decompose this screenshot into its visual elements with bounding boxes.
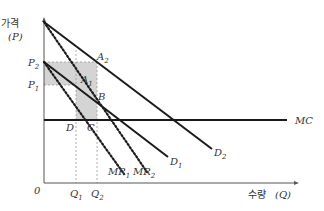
x-axis-symbol: (Q) [275, 189, 291, 200]
q1-label: Q1 [70, 188, 83, 202]
monopoly-diagram: 가격 (P) 수량 (Q) 0 P2 P1 Q1 Q2 A2 A1 B C D … [0, 0, 324, 211]
p1-label: P1 [27, 79, 39, 93]
x-axis-label: 수량 [248, 189, 266, 200]
x-axis-arrow-icon [294, 181, 299, 185]
q2-label: Q2 [91, 188, 104, 202]
point-c-label: C [87, 122, 95, 133]
d2-label: D2 [213, 147, 227, 161]
d1-line [44, 62, 168, 157]
point-d-label: D [65, 122, 74, 133]
shaded-area [44, 62, 97, 120]
mr2-line [44, 22, 147, 172]
p2-label: P2 [27, 57, 40, 71]
y-axis-label: 가격 [1, 17, 19, 29]
mc-label: MC [294, 115, 313, 126]
mr1-label: MR1 [107, 166, 130, 180]
point-b-label: B [97, 91, 105, 102]
mr2-label: MR2 [132, 166, 156, 180]
d1-label: D1 [169, 156, 183, 170]
y-axis-symbol: (P) [8, 31, 23, 42]
origin-label: 0 [34, 185, 41, 196]
